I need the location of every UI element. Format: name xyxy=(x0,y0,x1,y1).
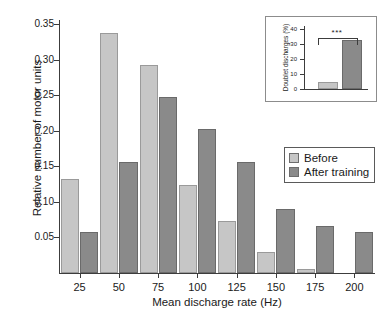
bar-after-training-100 xyxy=(198,129,216,273)
x-tick-mark xyxy=(276,273,277,278)
x-tick-mark xyxy=(354,273,355,278)
x-tick-label: 150 xyxy=(256,281,296,293)
inset-y-tick-mark xyxy=(300,44,305,45)
bar-before-125 xyxy=(218,221,236,273)
y-tick-mark xyxy=(54,202,60,203)
y-tick-label-text: 0.15 xyxy=(20,161,54,171)
bar-before-150 xyxy=(257,252,275,273)
legend-item-before: Before xyxy=(289,151,369,165)
legend-swatch-after-training-icon xyxy=(289,167,299,177)
figure-bar-chart-motor-units: Relative number of motor units Mean disc… xyxy=(0,0,388,319)
inset-y-tick-label: 20 xyxy=(279,56,297,62)
y-tick-label-text: 0.30 xyxy=(20,55,54,65)
legend-swatch-before-icon xyxy=(289,153,299,163)
inset-y-tick-mark xyxy=(300,29,305,30)
x-tick-mark xyxy=(197,273,198,278)
y-tick-label: 0.35 xyxy=(14,19,54,29)
x-axis-line xyxy=(59,273,375,274)
inset-y-axis-line xyxy=(304,26,305,89)
y-tick-mark xyxy=(54,95,60,96)
inset-bar-after-training xyxy=(342,40,362,90)
legend-item-after-training: After training xyxy=(289,165,369,179)
y-tick-label-text: 0.25 xyxy=(20,90,54,100)
y-tick-label: 0.20 xyxy=(14,126,54,136)
inset-y-tick-label: 0 xyxy=(279,86,297,92)
bar-after-training-125 xyxy=(237,162,255,273)
inset-y-tick-label: 30 xyxy=(279,41,297,47)
y-tick-label: 0.30 xyxy=(14,55,54,65)
legend-label-before: Before xyxy=(304,152,338,164)
bar-after-training-25 xyxy=(80,232,98,273)
inset-chart-doublet-discharges: Doublet discharges (%) 010203040 *** xyxy=(265,16,377,102)
bar-after-training-150 xyxy=(276,209,294,273)
x-tick-label: 25 xyxy=(60,281,100,293)
y-tick-label: 0.25 xyxy=(14,90,54,100)
y-tick-mark xyxy=(54,237,60,238)
significance-stars-label: *** xyxy=(318,28,356,37)
bar-after-training-200 xyxy=(355,232,373,273)
bar-before-100 xyxy=(179,185,197,273)
bar-after-training-50 xyxy=(119,162,137,273)
y-tick-mark xyxy=(54,166,60,167)
x-axis-title: Mean discharge rate (Hz) xyxy=(59,296,375,308)
y-tick-label: 0.15 xyxy=(14,161,54,171)
y-tick-label-text: 0.20 xyxy=(20,126,54,136)
y-tick-label-text: 0.10 xyxy=(20,197,54,207)
x-tick-mark xyxy=(119,273,120,278)
bar-after-training-175 xyxy=(316,226,334,273)
legend-label-after-training: After training xyxy=(304,166,369,178)
x-tick-mark xyxy=(80,273,81,278)
inset-y-tick-mark xyxy=(300,74,305,75)
bar-before-25 xyxy=(61,179,79,273)
bar-before-175 xyxy=(297,269,315,273)
inset-x-axis-line xyxy=(304,89,368,90)
bar-before-75 xyxy=(140,65,158,273)
inset-plot-area: Doublet discharges (%) 010203040 *** xyxy=(266,17,376,101)
x-tick-label: 75 xyxy=(138,281,178,293)
chart-legend: Before After training xyxy=(284,147,375,183)
x-tick-label: 200 xyxy=(334,281,374,293)
bar-after-training-75 xyxy=(159,97,177,273)
inset-bar-before xyxy=(318,82,338,90)
y-tick-mark xyxy=(54,60,60,61)
x-tick-mark xyxy=(237,273,238,278)
x-tick-label: 125 xyxy=(217,281,257,293)
x-tick-mark xyxy=(158,273,159,278)
inset-y-tick-label: 10 xyxy=(279,71,297,77)
significance-bracket xyxy=(318,38,358,45)
y-axis-line xyxy=(59,20,60,274)
inset-y-tick-mark xyxy=(300,89,305,90)
x-tick-label: 100 xyxy=(177,281,217,293)
y-tick-label: 0.05 xyxy=(14,232,54,242)
bar-before-50 xyxy=(100,33,118,273)
inset-y-tick-mark xyxy=(300,59,305,60)
inset-y-tick-label: 40 xyxy=(279,26,297,32)
y-tick-mark xyxy=(54,131,60,132)
x-tick-label: 50 xyxy=(99,281,139,293)
x-tick-label: 175 xyxy=(295,281,335,293)
y-tick-label-text: 0.35 xyxy=(20,19,54,29)
y-tick-mark xyxy=(54,24,60,25)
y-tick-label: 0.10 xyxy=(14,197,54,207)
x-tick-mark xyxy=(315,273,316,278)
y-tick-label-text: 0.05 xyxy=(20,232,54,242)
